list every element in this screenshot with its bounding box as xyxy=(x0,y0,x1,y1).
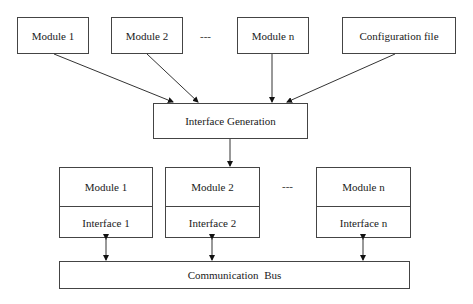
edge-config-to-generator xyxy=(287,54,395,102)
edges-layer xyxy=(0,0,473,304)
